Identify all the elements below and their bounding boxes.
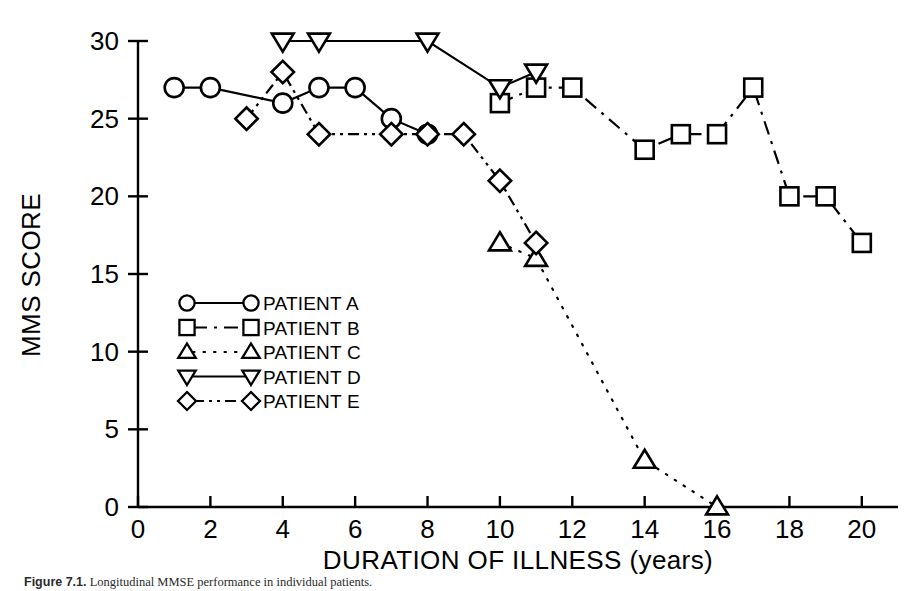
figure-caption: Figure 7.1. Longitudinal MMSE performanc… bbox=[24, 575, 904, 590]
circle-marker bbox=[273, 94, 292, 113]
x-tick-label: 16 bbox=[703, 514, 732, 544]
triangle-down-marker bbox=[272, 34, 294, 52]
legend-item-patient-a[interactable]: PATIENT A bbox=[179, 293, 358, 314]
triangle-down-marker bbox=[242, 371, 259, 385]
figure-root: 02468101214161820 051015202530 DURATION … bbox=[0, 0, 916, 591]
legend-item-patient-c[interactable]: PATIENT C bbox=[178, 342, 361, 363]
circle-marker bbox=[201, 78, 220, 97]
triangle-up-marker bbox=[634, 450, 656, 468]
diamond-marker bbox=[308, 123, 330, 145]
x-tick-label: 12 bbox=[558, 514, 587, 544]
diamond-marker bbox=[272, 61, 294, 83]
diamond-marker bbox=[178, 392, 196, 410]
triangle-up-marker bbox=[489, 232, 511, 250]
legend-label: PATIENT A bbox=[263, 293, 359, 314]
x-axis-tick-labels: 02468101214161820 bbox=[131, 514, 877, 544]
y-tick-label: 0 bbox=[105, 492, 119, 522]
y-axis-tick-labels: 051015202530 bbox=[90, 26, 119, 522]
triangle-down-marker bbox=[178, 371, 195, 385]
x-tick-label: 0 bbox=[131, 514, 145, 544]
legend-item-patient-d[interactable]: PATIENT D bbox=[178, 367, 361, 388]
diamond-marker bbox=[235, 107, 257, 129]
square-marker bbox=[817, 187, 835, 205]
x-tick-label: 4 bbox=[276, 514, 290, 544]
y-tick-label: 20 bbox=[90, 181, 119, 211]
x-tick-label: 8 bbox=[420, 514, 434, 544]
triangle-up-marker bbox=[178, 343, 195, 357]
circle-marker bbox=[179, 295, 194, 310]
x-tick-label: 14 bbox=[630, 514, 659, 544]
diamond-marker bbox=[453, 123, 475, 145]
diamond-marker bbox=[416, 123, 438, 145]
triangle-down-marker bbox=[308, 34, 330, 52]
figure-caption-lead: Figure 7.1. bbox=[24, 575, 87, 589]
legend-label: PATIENT B bbox=[263, 318, 360, 339]
series-line bbox=[500, 243, 717, 507]
y-axis-title: MMS SCORE bbox=[16, 193, 46, 357]
square-marker bbox=[744, 79, 762, 97]
figure-caption-rest: Longitudinal MMSE performance in individ… bbox=[87, 575, 373, 589]
x-tick-label: 10 bbox=[485, 514, 514, 544]
circle-marker bbox=[309, 78, 328, 97]
square-marker bbox=[243, 320, 258, 335]
square-marker bbox=[708, 125, 726, 143]
y-tick-label: 15 bbox=[90, 259, 119, 289]
x-axis-ticks bbox=[138, 496, 862, 507]
legend-item-patient-b[interactable]: PATIENT B bbox=[179, 318, 359, 339]
triangle-down-marker bbox=[417, 34, 439, 52]
data-series-layer bbox=[165, 34, 871, 515]
y-tick-label: 10 bbox=[90, 337, 119, 367]
square-marker bbox=[179, 320, 194, 335]
legend-label: PATIENT C bbox=[263, 342, 361, 363]
legend-item-patient-e[interactable]: PATIENT E bbox=[178, 391, 360, 412]
x-tick-label: 20 bbox=[847, 514, 876, 544]
circle-marker bbox=[165, 78, 184, 97]
diamond-marker bbox=[489, 170, 511, 192]
series-patient-b bbox=[491, 79, 871, 252]
y-tick-label: 30 bbox=[90, 26, 119, 56]
legend-label: PATIENT E bbox=[263, 391, 360, 412]
legend-label: PATIENT D bbox=[263, 367, 361, 388]
square-marker bbox=[636, 141, 654, 159]
series-line bbox=[500, 88, 862, 243]
square-marker bbox=[672, 125, 690, 143]
series-patient-c bbox=[489, 232, 728, 514]
triangle-up-marker bbox=[706, 496, 728, 514]
x-tick-label: 6 bbox=[348, 514, 362, 544]
diamond-marker bbox=[380, 123, 402, 145]
square-marker bbox=[780, 187, 798, 205]
square-marker bbox=[853, 234, 871, 252]
circle-marker bbox=[243, 295, 258, 310]
circle-marker bbox=[346, 78, 365, 97]
x-tick-label: 2 bbox=[203, 514, 217, 544]
diamond-marker bbox=[242, 392, 260, 410]
diamond-marker bbox=[525, 232, 547, 254]
triangle-up-marker bbox=[242, 343, 259, 357]
mms-score-line-chart: 02468101214161820 051015202530 DURATION … bbox=[0, 0, 916, 591]
y-tick-label: 25 bbox=[90, 104, 119, 134]
chart-legend: PATIENT APATIENT BPATIENT CPATIENT DPATI… bbox=[178, 293, 361, 412]
x-tick-label: 18 bbox=[775, 514, 804, 544]
y-tick-label: 5 bbox=[105, 414, 119, 444]
x-axis-title: DURATION OF ILLNESS (years) bbox=[323, 545, 713, 575]
square-marker bbox=[563, 79, 581, 97]
